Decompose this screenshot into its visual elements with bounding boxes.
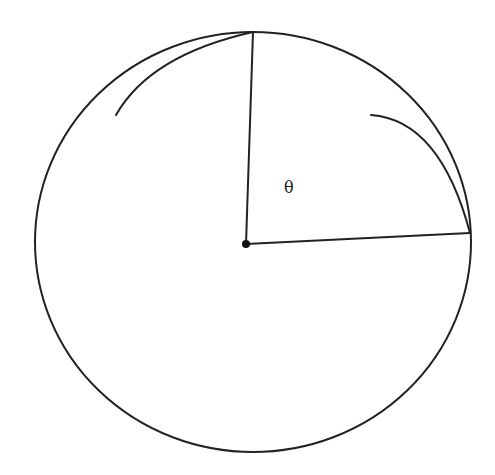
arc-from-top: [116, 32, 253, 115]
radius-horizontal: [246, 233, 470, 244]
center-point: [242, 240, 250, 248]
arc-from-right: [371, 115, 470, 233]
radius-vertical: [246, 32, 253, 244]
circle-diagram: θ: [0, 0, 495, 475]
angle-label-theta: θ: [284, 178, 294, 197]
outer-circle: [35, 32, 471, 452]
